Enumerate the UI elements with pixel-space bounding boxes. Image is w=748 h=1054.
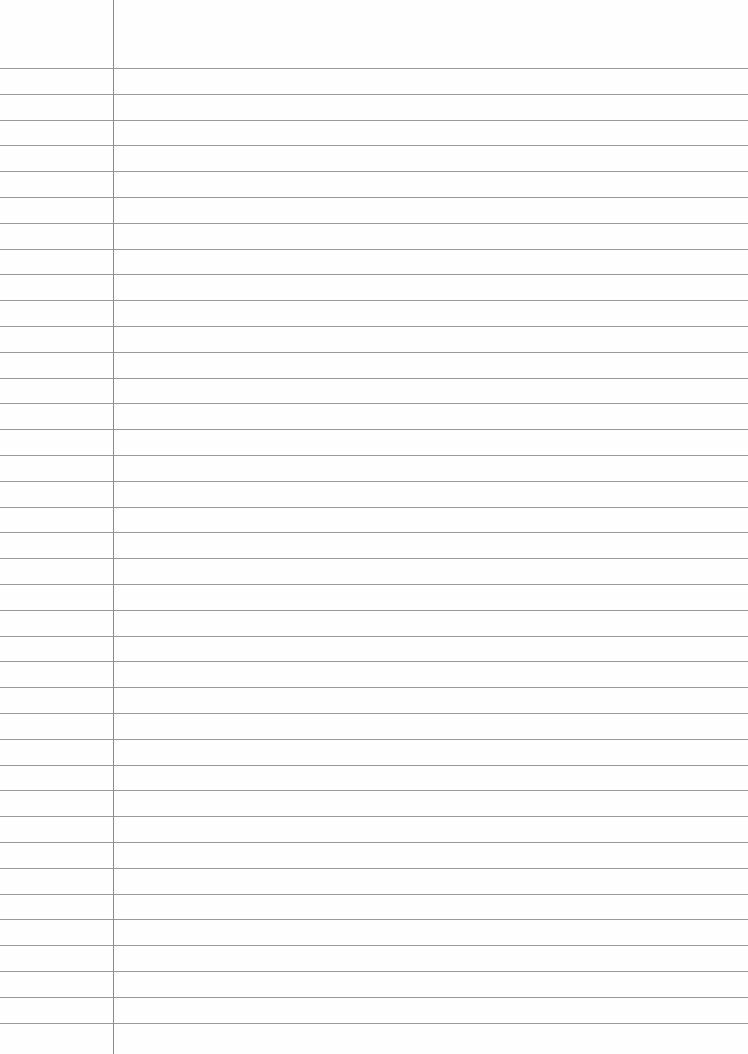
margin-line	[113, 0, 114, 1054]
lined-paper	[0, 0, 748, 1054]
